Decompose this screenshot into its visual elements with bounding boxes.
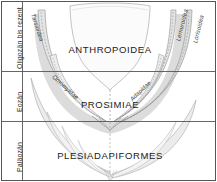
anthropoidea-band <box>70 3 150 90</box>
anthropoidea-band-group <box>70 3 150 90</box>
plesiadapiform-branch-5 <box>112 100 196 178</box>
phylogeny-canvas <box>0 0 217 182</box>
phylogeny-figure: Oligozän bis rezent Eozän Paläozän ANTHR… <box>0 0 217 182</box>
